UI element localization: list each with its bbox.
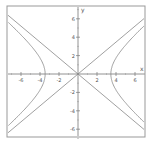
- x-tick-label: -4: [38, 77, 43, 83]
- y-tick-label: -6: [70, 126, 75, 132]
- x-tick-label: -2: [57, 77, 62, 83]
- y-tick-label: -2: [70, 89, 75, 95]
- plot-frame: [7, 6, 145, 137]
- y-tick-label: -4: [70, 108, 75, 114]
- x-axis-label: x: [140, 65, 144, 72]
- x-tick-label: 6: [133, 77, 136, 83]
- hyperbola-chart: -6-4-2246642-2-4-6 x y: [0, 0, 151, 143]
- x-tick-label: 2: [95, 77, 98, 83]
- y-axis-label: y: [81, 6, 85, 14]
- y-tick-label: 6: [72, 16, 75, 22]
- x-tick-label: -6: [19, 77, 24, 83]
- x-tick-label: 4: [114, 77, 117, 83]
- y-tick-label: 4: [72, 34, 75, 40]
- y-tick-label: 2: [72, 53, 75, 59]
